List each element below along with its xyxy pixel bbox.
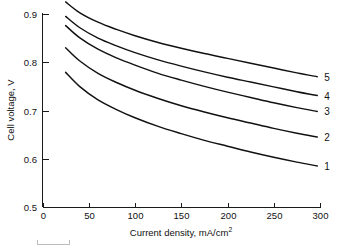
svg-text:Cell voltage, V: Cell voltage, V (5, 79, 16, 141)
x-axis-ticks (44, 203, 321, 208)
x-tick-label: 250 (267, 210, 283, 221)
x-axis-title: Current density, mA/cm2 (130, 226, 233, 238)
x-tick-label: 100 (128, 210, 144, 221)
cell-voltage-vs-current-density-chart: 54321 050100150200250300 0.50.60.70.80.9… (0, 0, 341, 246)
y-tick-label: 0.5 (24, 202, 37, 213)
y-tick-label: 0.8 (24, 57, 37, 68)
x-axis-title-base: Current density, mA/cm (130, 227, 229, 238)
caption-stub-marks (37, 240, 69, 245)
x-tick-label: 150 (174, 210, 190, 221)
x-tick-label: 200 (221, 210, 237, 221)
x-tick-label: 50 (84, 210, 95, 221)
y-tick-label: 0.7 (24, 106, 37, 117)
curve-label-5: 5 (324, 72, 330, 83)
curve-label-3: 3 (324, 106, 330, 117)
y-axis-ticks (43, 15, 49, 208)
x-axis-tick-labels: 050100150200250300 (41, 210, 329, 221)
x-axis-title-exponent: 2 (228, 226, 232, 233)
curve-label-4: 4 (324, 91, 330, 102)
curve-series-2 (66, 48, 318, 137)
x-tick-label: 300 (313, 210, 329, 221)
y-axis-tick-labels: 0.50.60.70.80.9 (24, 9, 37, 213)
svg-text:Current density, mA/cm2: Current density, mA/cm2 (130, 226, 233, 238)
chart-container: 54321 050100150200250300 0.50.60.70.80.9… (0, 0, 341, 246)
data-curves (66, 2, 318, 166)
curve-label-2: 2 (324, 132, 330, 143)
y-axis-title: Cell voltage, V (5, 79, 16, 141)
curve-series-1 (66, 72, 318, 166)
curve-series-5 (66, 2, 318, 77)
curve-series-labels: 54321 (324, 72, 330, 172)
y-tick-label: 0.9 (24, 9, 37, 20)
curve-label-1: 1 (324, 161, 330, 172)
chart-axes (43, 13, 321, 208)
x-tick-label: 0 (41, 210, 46, 221)
y-tick-label: 0.6 (24, 154, 37, 165)
